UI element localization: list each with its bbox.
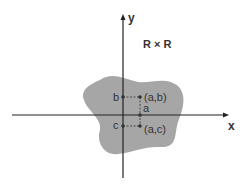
point-c	[121, 124, 125, 128]
point-a	[138, 113, 142, 117]
point-b	[121, 95, 125, 99]
y-axis-arrow-icon	[121, 14, 126, 20]
set-title: R × R	[143, 38, 171, 50]
point-ac	[138, 124, 142, 128]
x-axis-arrow-icon	[223, 113, 229, 118]
cartesian-product-diagram: y x R × R b (a,b) a c (a,c)	[0, 0, 247, 188]
label-c: c	[113, 119, 119, 131]
point-ab	[138, 95, 142, 99]
label-a: a	[143, 102, 150, 114]
x-axis-label: x	[228, 119, 235, 133]
y-axis-label: y	[128, 11, 135, 25]
label-ac: (a,c)	[144, 123, 166, 135]
label-b: b	[113, 91, 119, 103]
